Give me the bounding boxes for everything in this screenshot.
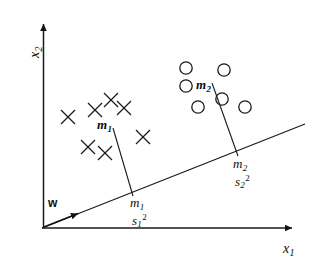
figure-graphics <box>0 0 314 269</box>
x-axis-label-subscript: 1 <box>290 247 295 258</box>
class2-projected-mean-base: m <box>233 156 242 171</box>
data-point-circle <box>218 64 230 76</box>
data-point-cross <box>136 130 150 144</box>
class2-mean-vector-base: m <box>196 77 206 92</box>
class1-scatter-superscript: 2 <box>142 212 147 222</box>
weight-vector-label: w <box>48 197 57 209</box>
class2-point-group <box>180 62 251 113</box>
class2-scatter-superscript: 2 <box>245 173 250 183</box>
class1-projected-mean-subscript: 1 <box>140 202 145 212</box>
class1-mean-vector-subscript: 1 <box>107 124 112 134</box>
data-point-cross <box>98 146 112 160</box>
x-axis-label-base: x <box>283 241 289 256</box>
data-point-cross <box>81 140 95 154</box>
weight-vector-arrow <box>44 214 78 228</box>
data-point-cross <box>61 110 75 124</box>
class1-mean-vector-label: m1 <box>97 118 112 134</box>
class2-scatter-label: s22 <box>235 174 250 190</box>
data-point-circle <box>180 80 192 92</box>
x-axis-label: x1 <box>283 242 295 258</box>
data-point-cross <box>104 93 118 107</box>
data-point-circle <box>180 62 192 74</box>
class1-projected-mean-label: m1 <box>130 196 144 212</box>
data-point-circle <box>239 101 251 113</box>
class1-projected-mean-base: m <box>130 195 139 210</box>
data-point-cross <box>117 101 131 115</box>
data-point-circle <box>192 101 204 113</box>
data-point-cross <box>88 103 102 117</box>
class1-mean-vector-base: m <box>97 117 107 132</box>
y-axis-label: x2 <box>28 46 44 58</box>
y-axis-label-base: x <box>27 52 42 58</box>
class2-projected-mean-subscript: 2 <box>243 163 248 173</box>
class1-scatter-label: s12 <box>132 213 147 229</box>
class2-mean-vector-label: m2 <box>196 78 211 94</box>
figure-canvas: x2 x1 w m1 m2 m1 s12 m2 s22 <box>0 0 314 269</box>
class2-mean-vector-subscript: 2 <box>206 84 211 94</box>
class1-projection-connector <box>113 128 133 196</box>
y-axis-label-subscript: 2 <box>33 46 44 51</box>
class2-projected-mean-label: m2 <box>233 157 247 173</box>
